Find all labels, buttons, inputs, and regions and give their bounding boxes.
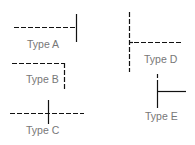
- type-a-label: Type A: [27, 38, 59, 50]
- type-e-label: Type E: [145, 110, 178, 122]
- type-b-label: Type B: [26, 73, 59, 85]
- type-c-label: Type C: [26, 124, 59, 136]
- type-e-shape: [157, 74, 186, 108]
- type-c-shape: [10, 100, 84, 124]
- type-d-label: Type D: [144, 53, 177, 65]
